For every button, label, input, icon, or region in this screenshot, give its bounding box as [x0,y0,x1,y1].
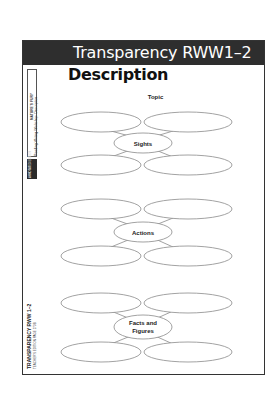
detail-ellipse [144,199,232,219]
cluster-diagram: Sights Actions Facts and Figures [23,41,266,376]
transparency-page: Transparency RWW1–2 Description Topic NA… [22,40,265,375]
detail-ellipse [144,293,232,313]
detail-ellipse [144,112,232,132]
cluster-label-actions: Actions [132,230,155,236]
detail-ellipse [61,155,141,175]
cluster-label-facts-line2: Figures [132,328,154,334]
detail-ellipse [144,342,232,362]
detail-ellipse [61,342,141,362]
cluster-label-sights: Sights [134,141,153,147]
detail-ellipse [144,246,232,266]
detail-ellipse [61,112,141,132]
detail-ellipse [61,199,141,219]
cluster-label-facts-line1: Facts and [129,320,157,326]
detail-ellipse [61,293,141,313]
center-ellipse [114,315,172,339]
detail-ellipse [61,246,141,266]
detail-ellipse [144,155,232,175]
